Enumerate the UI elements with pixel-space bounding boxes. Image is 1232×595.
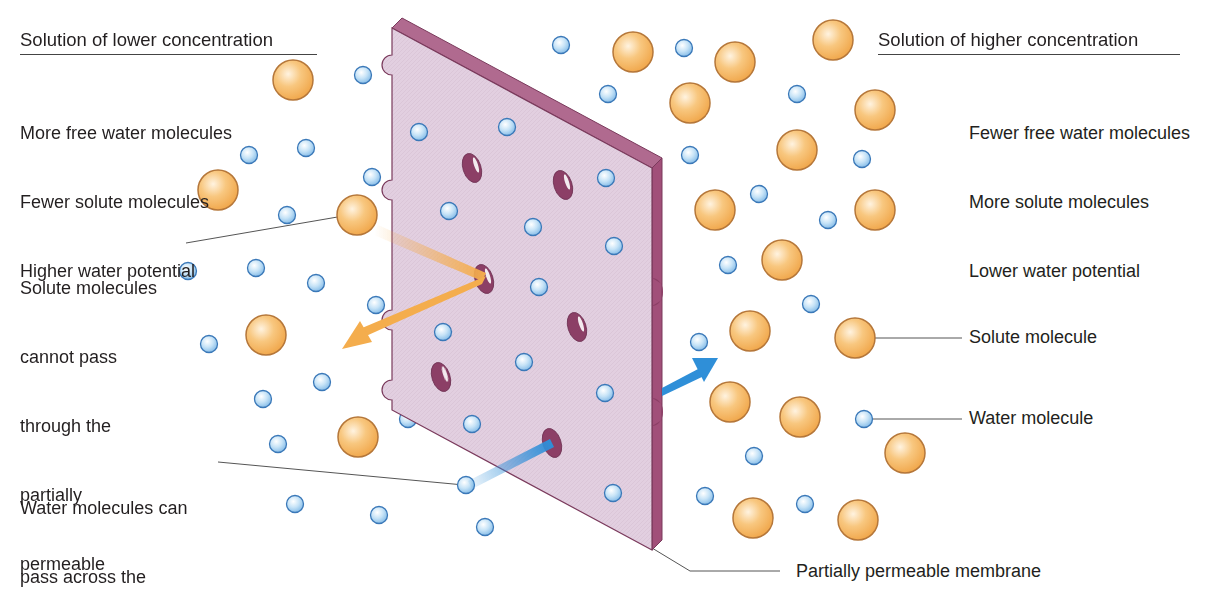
solute-molecule — [273, 60, 313, 100]
solute-molecule — [710, 382, 750, 422]
water-can-pass-note: Water molecules can pass across the part… — [20, 451, 187, 595]
water-molecule — [308, 275, 325, 292]
water-molecule — [682, 147, 699, 164]
solute-molecule — [855, 190, 895, 230]
left-property: Fewer solute molecules — [20, 191, 232, 214]
water-molecule — [820, 212, 837, 229]
water-molecule — [597, 385, 614, 402]
water-molecule — [270, 436, 287, 453]
water-molecule — [371, 507, 388, 524]
solute-molecule — [885, 433, 925, 473]
water-molecule — [720, 257, 737, 274]
water-molecule — [856, 411, 873, 428]
solute-molecule — [695, 190, 735, 230]
left-property: More free water molecules — [20, 122, 232, 145]
solute-molecule — [613, 32, 653, 72]
solute-molecule — [762, 240, 802, 280]
right-properties: Fewer free water molecules More solute m… — [969, 76, 1190, 329]
water-molecule — [605, 485, 622, 502]
water-molecule — [435, 324, 452, 341]
water-molecule — [854, 151, 871, 168]
note-line: Water molecules can — [20, 497, 187, 520]
water-molecule — [516, 354, 533, 371]
legend-solute-molecule: Solute molecule — [969, 326, 1097, 349]
solute-molecule — [670, 83, 710, 123]
water-molecule — [411, 124, 428, 141]
note-line: Solute molecules — [20, 277, 157, 300]
solute-molecule — [855, 90, 895, 130]
water-molecule — [241, 147, 258, 164]
water-molecule — [598, 170, 615, 187]
water-molecule — [751, 186, 768, 203]
water-molecule — [248, 260, 265, 277]
note-line: through the — [20, 415, 157, 438]
water-molecule — [697, 488, 714, 505]
legend-water-molecule: Water molecule — [969, 407, 1093, 430]
water-molecule — [499, 119, 516, 136]
note-line: cannot pass — [20, 346, 157, 369]
solute-molecule — [780, 397, 820, 437]
water-molecule — [676, 40, 693, 57]
water-molecule — [606, 238, 623, 255]
solute-molecule — [338, 417, 378, 457]
water-molecule — [368, 297, 385, 314]
water-molecule — [364, 169, 381, 186]
water-molecule — [600, 86, 617, 103]
leader-membrane — [652, 548, 780, 571]
partially-permeable-membrane — [382, 18, 663, 550]
water-molecule — [464, 416, 481, 433]
leader-water-note — [218, 462, 464, 485]
water-molecule — [314, 374, 331, 391]
water-molecule — [298, 140, 315, 157]
solute-molecule — [715, 42, 755, 82]
note-line: pass across the — [20, 566, 187, 589]
water-molecule — [691, 334, 708, 351]
water-molecule — [287, 496, 304, 513]
water-molecule — [255, 391, 272, 408]
water-molecule — [201, 336, 218, 353]
solute-molecule — [838, 500, 878, 540]
water-molecule — [803, 296, 820, 313]
water-molecule — [789, 86, 806, 103]
right-property: Lower water potential — [969, 260, 1190, 283]
solute-molecule — [730, 311, 770, 351]
solute-molecule — [777, 130, 817, 170]
water-molecule — [531, 279, 548, 296]
water-molecule — [441, 203, 458, 220]
right-heading: Solution of higher concentration — [878, 28, 1180, 55]
osmosis-diagram: Solution of lower concentration More fre… — [0, 0, 1232, 595]
left-heading: Solution of lower concentration — [20, 28, 317, 55]
solute-molecule — [733, 498, 773, 538]
water-molecule — [355, 67, 372, 84]
solute-molecule — [246, 315, 286, 355]
water-molecule — [797, 496, 814, 513]
water-molecule — [553, 37, 570, 54]
water-molecule — [746, 448, 763, 465]
right-property: Fewer free water molecules — [969, 122, 1190, 145]
membrane-label: Partially permeable membrane — [796, 560, 1041, 583]
solute-molecule — [835, 318, 875, 358]
water-molecule — [279, 207, 296, 224]
solute-molecule — [813, 20, 853, 60]
water-molecule — [477, 519, 494, 536]
solute-molecule — [337, 195, 377, 235]
right-property: More solute molecules — [969, 191, 1190, 214]
water-molecule — [525, 219, 542, 236]
